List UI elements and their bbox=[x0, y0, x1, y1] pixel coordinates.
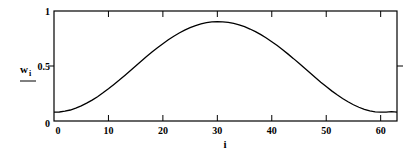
y-tick-label: 0 bbox=[45, 118, 50, 129]
x-tick-label: 10 bbox=[103, 125, 113, 136]
x-tick-label: 20 bbox=[158, 125, 168, 136]
x-tick-label: 0 bbox=[56, 125, 61, 136]
x-tick-label: 60 bbox=[376, 125, 386, 136]
data-line-w bbox=[54, 22, 397, 113]
x-tick-label: 50 bbox=[321, 125, 331, 136]
plot-frame bbox=[54, 11, 397, 121]
y-tick-label: 1 bbox=[45, 6, 50, 17]
x-axis-ticks: 0102030405060 bbox=[56, 11, 386, 136]
y-tick-label: 0.5 bbox=[38, 61, 51, 72]
y-axis-label-main: w bbox=[20, 63, 28, 75]
x-axis-label: i bbox=[223, 138, 226, 150]
y-axis-label-subscript: i bbox=[29, 69, 32, 78]
y-axis-label: w i bbox=[20, 63, 36, 81]
y-axis-ticks: 00.51 bbox=[38, 6, 404, 129]
x-tick-label: 40 bbox=[267, 125, 277, 136]
hamming-window-chart: w i 00.51 0102030405060 i bbox=[0, 0, 419, 160]
x-tick-label: 30 bbox=[212, 125, 222, 136]
